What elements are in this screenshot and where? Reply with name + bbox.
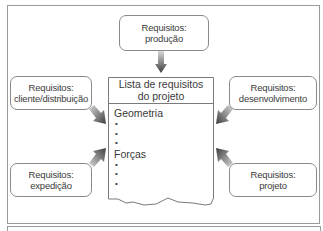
requirement-box-desenvolvimento: Requisitos: desenvolvimento xyxy=(229,76,317,110)
bullet-item: • xyxy=(114,129,163,139)
bullet-item: • xyxy=(114,138,163,148)
list-title: Lista de requisitos do projeto xyxy=(108,77,214,103)
requirement-label: Requisitos: xyxy=(142,22,187,33)
section-geometria: Geometria xyxy=(114,107,163,119)
requirement-source: cliente/distribuição xyxy=(14,93,88,104)
list-title-line2: do projeto xyxy=(138,90,185,102)
bullet-item: • xyxy=(114,169,163,179)
bullet-item: • xyxy=(114,179,163,189)
arrow-up-right-icon xyxy=(89,148,106,167)
requirement-box-expedicao: Requisitos: expedição xyxy=(10,163,92,197)
requirement-source: produção xyxy=(145,33,183,44)
requirement-source: desenvolvimento xyxy=(239,93,307,104)
bullet-item: • xyxy=(114,160,163,170)
section-forcas: Forças xyxy=(114,148,163,160)
requirement-label: Requisitos: xyxy=(29,82,74,93)
requirement-source: expedição xyxy=(30,180,72,191)
requirement-box-producao: Requisitos: produção xyxy=(119,15,209,51)
arrow-down-icon xyxy=(155,51,167,73)
requirement-source: projeto xyxy=(259,180,287,191)
requirement-label: Requisitos: xyxy=(29,169,74,180)
list-body: Geometria • • • Forças • • • xyxy=(114,107,163,188)
list-title-line1: Lista de requisitos xyxy=(119,78,204,90)
requirement-box-projeto: Requisitos: projeto xyxy=(229,163,317,197)
requirement-label: Requisitos: xyxy=(251,169,296,180)
requirement-box-cliente: Requisitos: cliente/distribuição xyxy=(10,76,92,110)
requirement-label: Requisitos: xyxy=(251,82,296,93)
requirements-list-document: Lista de requisitos do projeto Geometria… xyxy=(108,77,214,210)
arrow-down-right-icon xyxy=(89,105,106,124)
bullet-item: • xyxy=(114,119,163,129)
